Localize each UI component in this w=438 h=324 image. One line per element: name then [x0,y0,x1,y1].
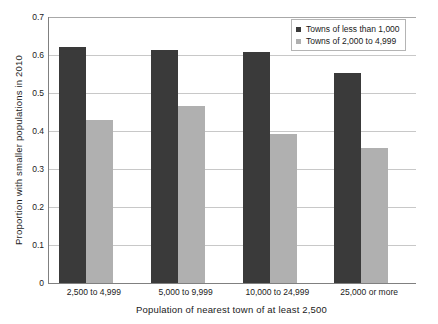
bar [334,73,361,283]
y-axis-tick-labels: 00.10.20.30.40.50.60.7 [18,0,44,324]
y-axis-tick-label: 0.4 [18,126,44,136]
bar [361,148,388,283]
y-axis-tick-label: 0.6 [18,50,44,60]
bar-group [141,17,233,283]
y-axis-tick-label: 0.3 [18,164,44,174]
x-axis-tick-label: 10,000 to 24,999 [232,286,324,298]
bar-group [49,17,141,283]
y-axis-tick-label: 0.2 [18,202,44,212]
y-axis-tick-label: 0.7 [18,12,44,22]
x-axis-tick-label: 2,500 to 4,999 [48,286,140,298]
y-axis-tick-label: 0.5 [18,88,44,98]
y-axis-tick-label: 0 [18,278,44,288]
bar-group [324,17,416,283]
bar [178,106,205,283]
legend-label: Towns of 2,000 to 4,999 [306,35,396,47]
y-axis-tick-label: 0.1 [18,240,44,250]
bar-group [233,17,325,283]
bar [59,47,86,283]
legend-label: Towns of less than 1,000 [306,23,400,35]
plot-area [48,17,416,284]
bar [86,120,113,283]
x-axis-tick-label: 25,000 or more [323,286,415,298]
bar-chart: Proportion with smaller populations in 2… [0,0,438,324]
x-axis-tick-labels: 2,500 to 4,9995,000 to 9,99910,000 to 24… [48,286,415,302]
legend-item: Towns of less than 1,000 [296,23,400,35]
legend-item: Towns of 2,000 to 4,999 [296,35,400,47]
x-axis-title: Population of nearest town of at least 2… [48,303,415,316]
legend: Towns of less than 1,000Towns of 2,000 t… [291,19,406,51]
bar [243,52,270,283]
bars-layer [49,17,416,283]
bar [270,134,297,283]
legend-swatch-icon [296,39,301,44]
legend-swatch-icon [296,27,301,32]
bar [151,50,178,283]
x-axis-tick-label: 5,000 to 9,999 [140,286,232,298]
